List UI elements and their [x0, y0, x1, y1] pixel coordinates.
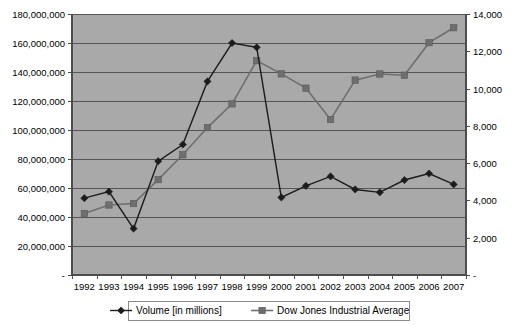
data-point-marker [229, 101, 235, 107]
category-axis-tick-label: 2005 [394, 281, 415, 292]
left-axis-tick-label: 20,000,000 [17, 241, 65, 252]
data-point-marker [327, 116, 333, 122]
left-axis-tick-label: 40,000,000 [17, 212, 65, 223]
category-axis-tick-label: 2006 [418, 281, 439, 292]
square-marker-icon [259, 307, 265, 313]
category-axis-tick-label: 1996 [172, 281, 193, 292]
left-axis-tick-label: 100,000,000 [12, 125, 65, 136]
category-axis-tick-label: 1999 [246, 281, 267, 292]
data-point-marker [450, 25, 456, 31]
right-axis-tick-label: 12,000 [473, 46, 502, 57]
category-axis-tick-label: 1992 [74, 281, 95, 292]
data-point-marker [278, 71, 284, 77]
left-axis-tick-label: 160,000,000 [12, 38, 65, 49]
data-point-marker [377, 71, 383, 77]
category-axis-tick-label: 1997 [197, 281, 218, 292]
left-axis-tick-label: 180,000,000 [12, 9, 65, 20]
data-point-marker [81, 210, 87, 216]
legend-label: Volume [in millions] [136, 305, 222, 316]
left-axis-tick-label: 60,000,000 [17, 183, 65, 194]
data-point-marker [352, 77, 358, 83]
data-point-marker [130, 200, 136, 206]
data-point-marker [204, 124, 210, 130]
right-axis-tick-label: 14,000 [473, 9, 502, 20]
category-axis-tick-label: 2004 [369, 281, 390, 292]
right-axis-tick-label: 4,000 [473, 195, 497, 206]
right-axis-tick-label: 8,000 [473, 121, 497, 132]
data-point-marker [401, 72, 407, 78]
category-axis-tick-label: 2003 [345, 281, 366, 292]
left-axis-tick-label: 140,000,000 [12, 67, 65, 78]
category-axis-tick-label: 2001 [295, 281, 316, 292]
plot-area-background [72, 14, 466, 275]
legend-label: Dow Jones Industrial Average [277, 305, 410, 316]
right-axis-tick-label: 10,000 [473, 84, 502, 95]
category-axis-tick-label: 2007 [443, 281, 464, 292]
right-axis-tick-label: 2,000 [473, 233, 497, 244]
left-axis-tick-label: - [62, 270, 65, 281]
data-point-marker [426, 39, 432, 45]
data-point-marker [155, 176, 161, 182]
data-point-marker [106, 202, 112, 208]
right-axis-tick-label: 6,000 [473, 158, 497, 169]
left-axis-tick-label: 120,000,000 [12, 96, 65, 107]
line-chart: 180,000,000160,000,000140,000,000120,000… [0, 0, 517, 325]
category-axis-tick-label: 1994 [123, 281, 144, 292]
data-point-marker [303, 85, 309, 91]
category-axis-tick-label: 2000 [271, 281, 292, 292]
category-axis-tick-label: 1993 [98, 281, 119, 292]
data-point-marker [180, 152, 186, 158]
chart-legend[interactable]: Volume [in millions]Dow Jones Industrial… [110, 301, 410, 320]
right-axis-tick-label: - [473, 270, 476, 281]
chart-container: 180,000,000160,000,000140,000,000120,000… [0, 0, 517, 325]
category-axis-tick-label: 1998 [221, 281, 242, 292]
category-axis-tick-label: 1995 [148, 281, 169, 292]
left-axis-tick-label: 80,000,000 [17, 154, 65, 165]
category-axis-tick-label: 2002 [320, 281, 341, 292]
